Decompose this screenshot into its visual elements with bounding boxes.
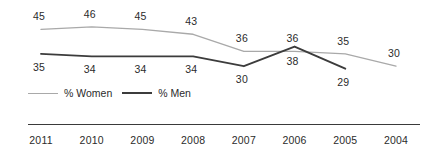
data-label-women: 45 [134,10,146,22]
chart-figure: 4546454336363530 35343434303829 % Women … [0,0,433,160]
legend-swatch-women-icon [28,93,58,94]
data-label-women: 35 [337,35,349,47]
chart-legend: % Women % Men [28,85,191,101]
x-axis-tick-2006: 2006 [282,134,306,146]
data-label-women: 36 [236,32,248,44]
legend-item-women[interactable]: % Women [28,87,112,99]
x-axis-tick-labels: 20112010200920082007200620052004 [0,134,433,154]
data-label-men: 29 [337,76,349,88]
x-axis-tick-2011: 2011 [29,134,52,146]
x-axis-tick-2008: 2008 [181,134,205,146]
x-axis-tick-2009: 2009 [130,134,154,146]
x-axis-tick-2004: 2004 [384,134,408,146]
legend-label-women: % Women [64,87,112,99]
axis-separator-rule [28,124,420,125]
data-label-women: 46 [84,8,96,20]
legend-swatch-men-icon [122,92,152,94]
data-label-men: 38 [287,55,299,67]
data-label-women: 45 [33,10,45,22]
legend-item-men[interactable]: % Men [122,87,191,99]
data-label-men: 35 [33,61,45,73]
data-label-men: 30 [236,73,248,85]
data-label-women: 30 [388,47,400,59]
data-label-women: 36 [287,32,299,44]
legend-label-men: % Men [158,87,191,99]
data-label-men: 34 [84,63,96,75]
x-axis-tick-2007: 2007 [232,134,256,146]
x-axis-tick-2005: 2005 [333,134,357,146]
data-label-men: 34 [185,63,197,75]
data-label-women: 43 [185,15,197,27]
data-label-men: 34 [134,63,146,75]
line-chart-plot [0,0,433,120]
x-axis-tick-2010: 2010 [80,134,104,146]
